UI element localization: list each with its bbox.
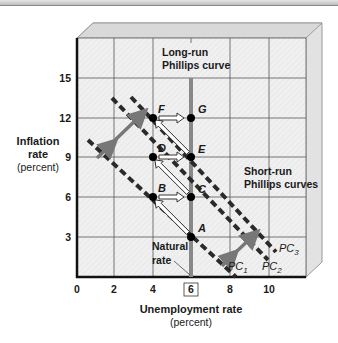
svg-text:10: 10 — [263, 283, 275, 295]
svg-text:4: 4 — [150, 283, 156, 295]
short-run-label-2: Phillips curves — [244, 178, 318, 190]
svg-text:2: 2 — [111, 283, 117, 295]
svg-text:15: 15 — [59, 72, 71, 84]
label-a: A — [197, 222, 206, 234]
long-run-label-2: Phillips curve — [162, 59, 230, 71]
svg-text:12: 12 — [59, 112, 71, 124]
svg-text:8: 8 — [227, 283, 233, 295]
svg-text:3: 3 — [65, 231, 71, 243]
y-tick-labels: 3 6 9 12 15 — [59, 72, 71, 243]
label-f: F — [158, 103, 165, 115]
point-b — [149, 193, 157, 201]
label-g: G — [198, 103, 207, 115]
short-run-label-1: Short-run — [244, 165, 292, 177]
point-g — [187, 114, 195, 122]
long-run-label-1: Long-run — [162, 46, 208, 58]
x-tick-labels: 0 2 4 6 8 10 — [74, 283, 275, 296]
label-d: D — [158, 142, 166, 154]
svg-text:0: 0 — [74, 283, 80, 295]
y-axis-title-1: Inflation — [17, 135, 60, 147]
svg-text:6: 6 — [188, 283, 194, 295]
y-axis-title-2: rate — [28, 148, 48, 160]
svg-text:9: 9 — [65, 151, 71, 163]
x-axis-title: Unemployment rate — [140, 303, 243, 315]
point-a — [187, 233, 195, 241]
y-axis-subtitle: (percent) — [17, 161, 59, 173]
x-axis-subtitle: (percent) — [170, 316, 212, 328]
label-c: C — [198, 183, 207, 195]
svg-text:6: 6 — [65, 191, 71, 203]
natural-rate-label-1: Natural — [152, 240, 188, 252]
point-e — [187, 153, 195, 161]
point-c — [187, 193, 195, 201]
point-f — [149, 114, 157, 122]
natural-rate-label-2: rate — [152, 254, 171, 266]
phillips-curve-chart: A B C D E F G Long-run Phillips curve Sh… — [0, 0, 338, 343]
label-b: B — [158, 182, 166, 194]
point-d — [149, 153, 157, 161]
label-e: E — [198, 143, 206, 155]
